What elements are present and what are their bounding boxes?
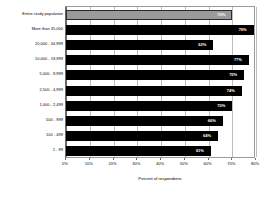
x-axis-tick <box>65 158 66 160</box>
x-axis-title: Percent of respondents <box>65 176 255 181</box>
x-axis-tick-label: 40% <box>156 161 164 166</box>
bar[interactable] <box>66 116 223 126</box>
x-axis-tick-label: 60% <box>203 161 211 166</box>
x-axis-tick-label: 30% <box>132 161 140 166</box>
bar-row[interactable]: 70% <box>66 101 256 111</box>
category-label: 20,000 - 34,999 <box>0 42 63 46</box>
plot-area: 70%79%62%77%75%74%70%66%64%61% <box>65 6 255 158</box>
x-axis-tick-label: 50% <box>180 161 188 166</box>
category-label: 1 - 99 <box>0 148 63 152</box>
bar-row[interactable]: 77% <box>66 55 256 65</box>
bar-row[interactable]: 79% <box>66 25 256 35</box>
bar-value-label: 70% <box>217 13 225 17</box>
bar-row[interactable]: 74% <box>66 86 256 96</box>
bar-row[interactable]: 64% <box>66 131 256 141</box>
bar-value-label: 66% <box>208 119 216 123</box>
category-label: Entire study population <box>0 12 63 16</box>
category-label: 1,000 - 2,499 <box>0 103 63 107</box>
x-axis-tick <box>184 158 185 160</box>
bar-value-label: 74% <box>227 89 235 93</box>
bar-row[interactable]: 75% <box>66 70 256 80</box>
bar-value-label: 70% <box>217 104 225 108</box>
x-axis-tick <box>160 158 161 160</box>
x-axis-tick-label: 70% <box>227 161 235 166</box>
bar[interactable] <box>66 70 244 80</box>
x-axis-tick <box>255 158 256 160</box>
bar-value-label: 61% <box>196 149 204 153</box>
x-axis-tick <box>136 158 137 160</box>
bar-value-label: 75% <box>229 73 237 77</box>
bar-row[interactable]: 61% <box>66 146 256 156</box>
category-label: 10,000 - 19,999 <box>0 57 63 61</box>
bar-value-label: 64% <box>203 134 211 138</box>
bar-value-label: 79% <box>239 28 247 32</box>
bar[interactable] <box>66 101 232 111</box>
x-axis-tick-label: 0% <box>62 161 68 166</box>
bar-row[interactable]: 66% <box>66 116 256 126</box>
bar[interactable] <box>66 131 218 141</box>
bar-value-label: 62% <box>198 43 206 47</box>
chart-plot-wrapper: Entire study populationMore than 35,0002… <box>0 0 266 199</box>
x-axis-tick <box>208 158 209 160</box>
x-axis-tick-label: 80% <box>251 161 259 166</box>
x-axis-tick-label: 20% <box>108 161 116 166</box>
bar-value-label: 77% <box>234 58 242 62</box>
bar-chart: Entire study populationMore than 35,0002… <box>0 0 266 199</box>
bar-row[interactable]: 70% <box>66 10 256 20</box>
bar-row[interactable]: 62% <box>66 40 256 50</box>
gridline-80 <box>256 7 257 157</box>
bar[interactable] <box>66 10 232 20</box>
x-axis-tick <box>113 158 114 160</box>
category-label: 2,500 - 4,999 <box>0 88 63 92</box>
bar[interactable] <box>66 86 242 96</box>
bar[interactable] <box>66 55 249 65</box>
bar[interactable] <box>66 146 211 156</box>
category-label: More than 35,000 <box>0 27 63 31</box>
x-axis-tick <box>89 158 90 160</box>
x-axis-tick <box>231 158 232 160</box>
bar[interactable] <box>66 25 254 35</box>
x-axis: 0%10%20%30%40%50%60%70%80% <box>65 158 255 170</box>
bar[interactable] <box>66 40 213 50</box>
category-label: 100 - 499 <box>0 133 63 137</box>
category-axis-labels: Entire study populationMore than 35,0002… <box>0 6 65 158</box>
category-label: 5,000 - 9,999 <box>0 72 63 76</box>
x-axis-tick-label: 10% <box>85 161 93 166</box>
category-label: 500 - 999 <box>0 118 63 122</box>
